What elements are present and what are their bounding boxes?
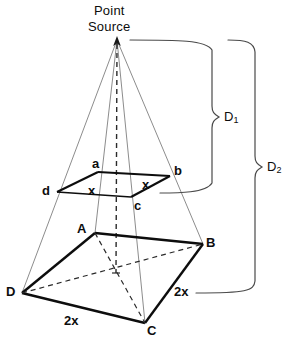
near-square <box>57 172 170 197</box>
vertex-label-c: c <box>134 199 141 212</box>
distance-label-d2-subscript: 2 <box>276 165 281 175</box>
vertex-label-A: A <box>77 222 86 235</box>
distance-label-d1-subscript: 1 <box>233 115 238 125</box>
vertex-label-d: d <box>42 184 50 197</box>
distance-label-d2-base: D <box>267 159 276 174</box>
near-edge-b-c <box>131 176 170 197</box>
distance-label-d2: D2 <box>267 160 281 175</box>
far-edge-A-B <box>95 233 203 244</box>
vertex-label-b: b <box>174 164 182 177</box>
point-source-label-line2: Source <box>88 20 130 33</box>
figure-canvas: Point Source a b c d x x A B C D 2x 2x D… <box>0 0 304 342</box>
distance-label-d1: D1 <box>224 110 238 125</box>
far-square-diagonals <box>22 233 203 323</box>
near-square-side-label-left: x <box>88 184 95 197</box>
near-square-side-label-right: x <box>142 178 149 191</box>
far-square-side-label-right: 2x <box>174 285 188 298</box>
vertex-label-D: D <box>6 285 15 298</box>
far-edge-C-D <box>22 293 145 323</box>
far-square <box>22 233 203 323</box>
central-axis-dashed <box>116 44 117 273</box>
distance-label-d1-base: D <box>224 109 233 124</box>
pyramid-diagram-svg <box>0 0 304 342</box>
vertex-label-B: B <box>206 236 215 249</box>
vertex-label-C: C <box>147 324 156 337</box>
point-source-label-line1: Point <box>94 4 125 17</box>
vertex-label-a: a <box>92 157 99 170</box>
brace-d2 <box>196 40 262 293</box>
far-square-side-label-left: 2x <box>64 314 78 327</box>
ray-apex-to-B <box>117 40 203 244</box>
near-edge-a-b <box>98 172 170 176</box>
